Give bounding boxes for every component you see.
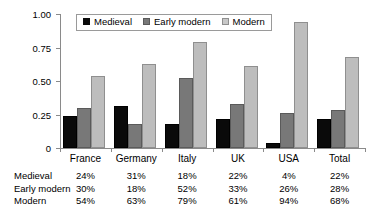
bar-group bbox=[60, 14, 111, 148]
table-cell: 28% bbox=[330, 183, 349, 194]
table-cell: 4% bbox=[282, 170, 296, 181]
bar-medieval bbox=[63, 116, 77, 148]
y-tick-label: 0.25 bbox=[33, 109, 52, 120]
y-tick-label: 0.50 bbox=[33, 76, 52, 87]
table-cell: 68% bbox=[330, 195, 349, 206]
table-row-label: Early modern bbox=[14, 183, 71, 194]
table-cell: 24% bbox=[76, 170, 95, 181]
bar-early-modern bbox=[280, 113, 294, 148]
y-tick-label: 1.00 bbox=[33, 9, 52, 20]
table-cell: 22% bbox=[330, 170, 349, 181]
table-row: Early modern30%18%52%33%26%28% bbox=[0, 183, 376, 196]
table-cell: 79% bbox=[178, 195, 197, 206]
bar-early-modern bbox=[230, 104, 244, 148]
plot-area: 1.000.750.500.250 bbox=[60, 14, 365, 148]
table-cell: 63% bbox=[127, 195, 146, 206]
table-row-label: Modern bbox=[14, 195, 46, 206]
legend-item-modern[interactable]: Modern bbox=[222, 17, 265, 27]
legend-label: Medieval bbox=[94, 17, 132, 27]
bar-chart-figure: 1.000.750.500.250 MedievalEarly modernMo… bbox=[0, 0, 376, 208]
bar-medieval bbox=[317, 119, 331, 148]
table-cell: 18% bbox=[178, 170, 197, 181]
table-cell: 54% bbox=[76, 195, 95, 206]
category-label-france: France bbox=[70, 153, 101, 164]
bar-modern bbox=[142, 64, 156, 148]
legend-item-medieval[interactable]: Medieval bbox=[83, 17, 132, 27]
y-tick-label: 0.75 bbox=[33, 42, 52, 53]
bar-early-modern bbox=[331, 110, 345, 148]
table-cell: 22% bbox=[228, 170, 247, 181]
category-label-total: Total bbox=[329, 153, 350, 164]
category-label-usa: USA bbox=[278, 153, 299, 164]
bar-modern bbox=[345, 57, 359, 148]
legend-label: Modern bbox=[233, 17, 265, 27]
legend-item-early-modern[interactable]: Early modern bbox=[143, 17, 211, 27]
bar-early-modern bbox=[77, 108, 91, 148]
y-tick-label: 0 bbox=[46, 143, 51, 154]
bar-medieval bbox=[216, 119, 230, 148]
bar-modern bbox=[294, 22, 308, 148]
bar-modern bbox=[193, 42, 207, 148]
bar-modern bbox=[244, 66, 258, 148]
bar-group bbox=[314, 14, 365, 148]
table-row: Medieval24%31%18%22%4%22% bbox=[0, 170, 376, 183]
x-tick-mark bbox=[263, 148, 264, 152]
bar-group bbox=[213, 14, 264, 148]
table-cell: 52% bbox=[178, 183, 197, 194]
table-cell: 26% bbox=[279, 183, 298, 194]
x-tick-mark bbox=[162, 148, 163, 152]
table-cell: 94% bbox=[279, 195, 298, 206]
x-tick-mark bbox=[213, 148, 214, 152]
bar-group bbox=[162, 14, 213, 148]
bar-medieval bbox=[266, 143, 280, 148]
legend-swatch-icon bbox=[83, 18, 90, 25]
table-row: Modern54%63%79%61%94%68% bbox=[0, 195, 376, 208]
legend-swatch-icon bbox=[222, 18, 229, 25]
bar-medieval bbox=[114, 106, 128, 148]
bar-early-modern bbox=[128, 124, 142, 148]
category-label-uk: UK bbox=[231, 153, 245, 164]
legend-swatch-icon bbox=[143, 18, 150, 25]
table-cell: 31% bbox=[127, 170, 146, 181]
table-row-label: Medieval bbox=[14, 170, 52, 181]
table-cell: 30% bbox=[76, 183, 95, 194]
chart-legend: MedievalEarly modernModern bbox=[76, 14, 272, 31]
x-tick-mark bbox=[365, 148, 366, 152]
bar-group bbox=[111, 14, 162, 148]
x-tick-mark bbox=[111, 148, 112, 152]
x-tick-mark bbox=[314, 148, 315, 152]
data-table: Medieval24%31%18%22%4%22%Early modern30%… bbox=[0, 170, 376, 208]
table-cell: 61% bbox=[228, 195, 247, 206]
bar-group bbox=[263, 14, 314, 148]
bar-medieval bbox=[165, 124, 179, 148]
bar-early-modern bbox=[179, 78, 193, 148]
legend-label: Early modern bbox=[154, 17, 211, 27]
table-cell: 18% bbox=[127, 183, 146, 194]
x-tick-mark bbox=[60, 148, 61, 152]
category-label-germany: Germany bbox=[116, 153, 157, 164]
table-cell: 33% bbox=[228, 183, 247, 194]
category-label-italy: Italy bbox=[178, 153, 196, 164]
bar-modern bbox=[91, 76, 105, 148]
